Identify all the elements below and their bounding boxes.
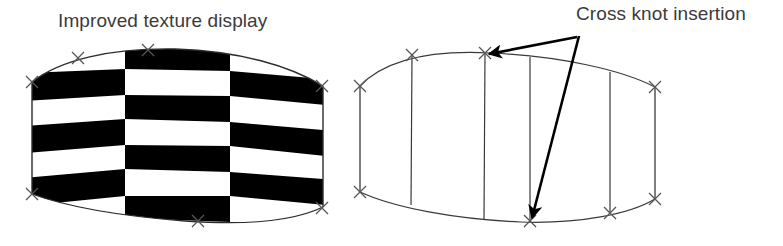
left-panel-group — [25, 40, 335, 240]
right-control-point-markers — [354, 47, 661, 227]
arrow-to-bottom-knot — [532, 36, 579, 218]
isocurve — [411, 55, 412, 205]
annotation-arrows — [489, 36, 579, 218]
isocurve — [484, 53, 485, 219]
arrow-to-top-knot — [489, 37, 577, 54]
left-figure-caption: Improved texture display — [58, 10, 267, 32]
right-patch-top-boundary — [360, 52, 655, 87]
right-patch-bottom-boundary — [360, 192, 655, 222]
figure-root: Improved texture display Cross knot inse… — [0, 0, 783, 246]
figure-canvas — [0, 0, 783, 246]
right-panel-group — [354, 36, 661, 227]
isoparametric-curves — [411, 53, 610, 221]
right-figure-caption: Cross knot insertion — [576, 3, 746, 25]
